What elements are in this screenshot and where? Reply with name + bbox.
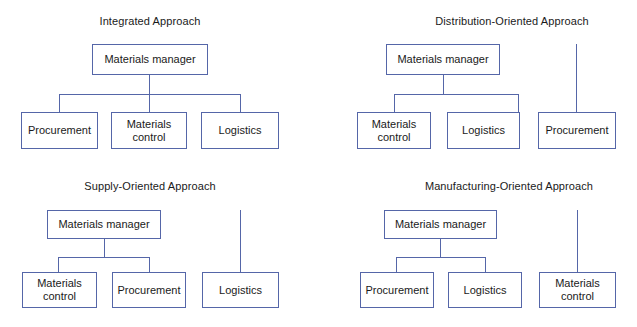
node-logistics-distribution[interactable]: Logistics	[447, 112, 520, 149]
node-label: Materials control	[127, 118, 172, 144]
panel-title-supply-oriented: Supply-Oriented Approach	[0, 180, 300, 193]
panel-integrated-approach: Integrated Approach Materials manager Pr…	[0, 0, 318, 164]
node-procurement-integrated[interactable]: Procurement	[21, 112, 98, 149]
edge-root-stem-supply	[104, 239, 105, 257]
node-label: Procurement	[118, 284, 181, 297]
edge-drop-procurement-supply	[149, 257, 150, 272]
node-logistics-supply-detached[interactable]: Logistics	[202, 272, 279, 308]
edge-root-stem-distribution	[443, 75, 444, 94]
node-label: Logistics	[219, 124, 262, 137]
node-materials-manager-supply[interactable]: Materials manager	[47, 210, 161, 239]
node-label: Materials manager	[58, 218, 149, 231]
panel-supply-oriented-approach: Supply-Oriented Approach Materials manag…	[0, 164, 318, 327]
node-logistics-manufacturing[interactable]: Logistics	[448, 272, 522, 308]
panel-title-distribution-oriented: Distribution-Oriented Approach	[419, 15, 605, 28]
edge-drop-procurement-integrated	[59, 94, 60, 112]
panel-title-integrated: Integrated Approach	[0, 15, 300, 28]
panel-manufacturing-oriented-approach: Manufacturing-Oriented Approach Material…	[319, 164, 637, 327]
node-label: Logistics	[464, 284, 507, 297]
detached-stem-procurement-distribution	[576, 44, 577, 112]
detached-stem-materials-control-manufacturing	[577, 210, 578, 272]
node-label: Materials control	[555, 277, 600, 303]
edge-drop-logistics-integrated	[240, 94, 241, 112]
node-materials-manager-distribution[interactable]: Materials manager	[386, 44, 500, 75]
node-procurement-distribution-detached[interactable]: Procurement	[538, 112, 616, 149]
edge-bus-manufacturing	[396, 257, 485, 258]
node-logistics-integrated[interactable]: Logistics	[201, 112, 279, 149]
node-label: Logistics	[219, 284, 262, 297]
edge-drop-materials-control-supply	[58, 257, 59, 272]
node-label: Logistics	[462, 124, 505, 137]
node-label: Materials manager	[397, 53, 488, 66]
edge-drop-logistics-manufacturing	[485, 257, 486, 272]
edge-drop-logistics-distribution	[518, 94, 519, 112]
org-chart-figure: Integrated Approach Materials manager Pr…	[0, 0, 637, 327]
edge-drop-materials-control-distribution	[394, 94, 395, 112]
node-label: Materials control	[37, 277, 82, 303]
edge-bus-supply	[58, 257, 149, 258]
node-procurement-supply[interactable]: Procurement	[112, 272, 186, 308]
edge-bus-distribution	[394, 94, 518, 95]
node-label: Procurement	[28, 124, 91, 137]
node-materials-manager-manufacturing[interactable]: Materials manager	[384, 210, 497, 239]
edge-root-stem-integrated	[149, 75, 150, 94]
node-label: Procurement	[546, 124, 609, 137]
node-label: Materials manager	[104, 53, 195, 66]
edge-drop-procurement-manufacturing	[396, 257, 397, 272]
node-materials-control-integrated[interactable]: Materials control	[111, 112, 187, 149]
node-materials-control-manufacturing-detached[interactable]: Materials control	[539, 272, 616, 308]
node-materials-manager-integrated[interactable]: Materials manager	[92, 44, 208, 75]
edge-drop-materials-control-integrated	[149, 94, 150, 112]
detached-stem-logistics-supply	[240, 210, 241, 272]
edge-bus-integrated	[59, 94, 241, 95]
node-label: Materials control	[372, 118, 417, 144]
panel-title-manufacturing-oriented: Manufacturing-Oriented Approach	[409, 180, 609, 193]
edge-root-stem-manufacturing	[440, 239, 441, 257]
node-label: Materials manager	[395, 218, 486, 231]
node-label: Procurement	[366, 284, 429, 297]
node-procurement-manufacturing[interactable]: Procurement	[360, 272, 434, 308]
node-materials-control-supply[interactable]: Materials control	[22, 272, 97, 308]
node-materials-control-distribution[interactable]: Materials control	[357, 112, 431, 149]
panel-distribution-oriented-approach: Distribution-Oriented Approach Materials…	[319, 0, 637, 164]
